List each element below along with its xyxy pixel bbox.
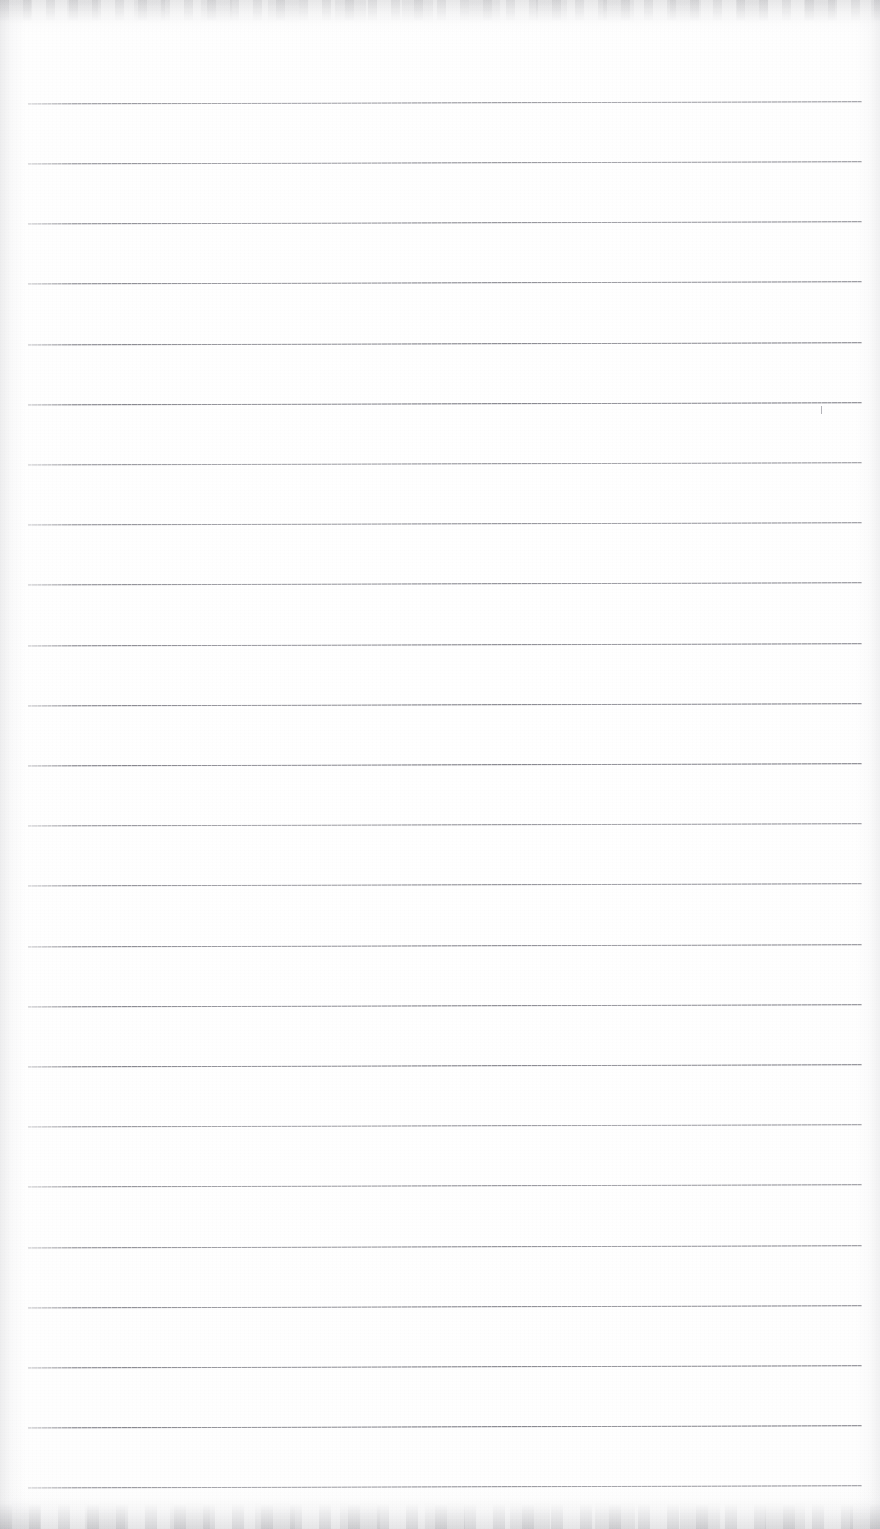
ruled-line <box>28 1004 862 1008</box>
ruled-line <box>28 1425 862 1429</box>
ruled-line <box>28 1485 862 1489</box>
ruled-line <box>28 1365 862 1369</box>
scanned-page <box>0 0 880 1529</box>
ruled-line <box>28 944 862 948</box>
ruled-lines-group <box>0 0 880 1529</box>
ruled-line <box>28 101 862 105</box>
ruled-line <box>28 281 862 285</box>
ruled-line <box>28 643 862 647</box>
ruled-line <box>28 221 862 225</box>
ruled-line <box>28 823 862 827</box>
ruled-line <box>28 883 862 887</box>
ruled-line <box>28 1245 862 1249</box>
ruled-line <box>28 1064 862 1068</box>
ruled-line <box>28 342 862 346</box>
ruled-line <box>28 1305 862 1309</box>
ruled-line <box>28 582 862 586</box>
ruled-line <box>28 1184 862 1188</box>
ruled-line <box>28 462 862 466</box>
ruled-line <box>28 402 862 406</box>
ruled-line <box>28 161 862 165</box>
ruled-line <box>28 763 862 767</box>
ruled-line <box>28 1124 862 1128</box>
ruled-line <box>28 522 862 526</box>
ruled-line <box>28 703 862 707</box>
stray-tick-mark-icon <box>821 406 822 414</box>
